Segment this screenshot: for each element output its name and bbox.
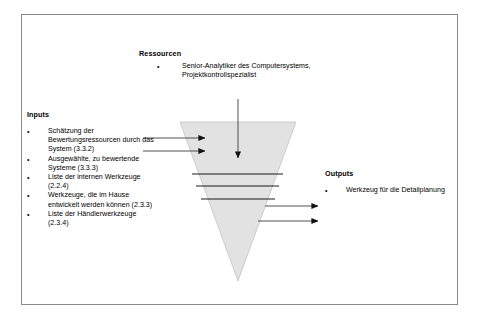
bullet-icon: • bbox=[27, 155, 29, 164]
outputs-heading: Outputs bbox=[325, 169, 353, 178]
list-item: • Liste der Händlerwerkzeuge (2.3.4) bbox=[27, 210, 155, 228]
list-item: • Werkzeuge, die im Hause entwickelt wer… bbox=[27, 191, 155, 209]
bullet-icon: • bbox=[27, 127, 29, 136]
resources-heading: Ressourcen bbox=[139, 49, 181, 58]
list-item-label: Senior-Analytiker des Computersystems, P… bbox=[157, 62, 347, 80]
list-item-label: Schätzung der Bewertungsressourcen durch… bbox=[27, 127, 155, 155]
bullet-icon: • bbox=[27, 173, 29, 182]
list-item-label: Liste der Händlerwerkzeuge (2.3.4) bbox=[27, 210, 155, 228]
list-item: • Schätzung der Bewertungsressourcen dur… bbox=[27, 127, 155, 155]
list-item-label: Liste der internen Werkzeuge (2.2.4) bbox=[27, 173, 155, 191]
list-item-label: Werkzeug für die Detailplanung bbox=[325, 186, 455, 195]
bullet-icon: • bbox=[27, 191, 29, 200]
inputs-list: • Schätzung der Bewertungsressourcen dur… bbox=[27, 127, 155, 228]
bullet-icon: • bbox=[27, 210, 29, 219]
bullet-icon: • bbox=[157, 62, 159, 71]
list-item: • Werkzeug für die Detailplanung bbox=[325, 186, 455, 195]
resources-list: • Senior-Analytiker des Computersystems,… bbox=[157, 62, 347, 81]
list-item: • Senior-Analytiker des Computersystems,… bbox=[157, 62, 347, 80]
bullet-icon: • bbox=[325, 186, 327, 195]
list-item-label: Ausgewählte, zu bewertende Systeme (3.3.… bbox=[27, 155, 155, 173]
diagram-canvas: Ressourcen • Senior-Analytiker des Compu… bbox=[0, 0, 479, 321]
list-item: • Liste der internen Werkzeuge (2.2.4) bbox=[27, 173, 155, 191]
list-item: • Ausgewählte, zu bewertende Systeme (3.… bbox=[27, 155, 155, 173]
list-item-label: Werkzeuge, die im Hause entwickelt werde… bbox=[27, 191, 155, 209]
inputs-heading: Inputs bbox=[27, 110, 49, 119]
outputs-list: • Werkzeug für die Detailplanung bbox=[325, 186, 455, 196]
